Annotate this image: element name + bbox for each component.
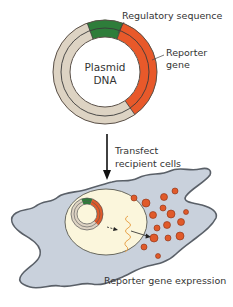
reporter-gene-label-line1: Reporter bbox=[166, 47, 207, 58]
regulatory-sequence-label: Regulatory sequence bbox=[122, 10, 223, 21]
reporter-gene-label-line2: gene bbox=[166, 59, 190, 70]
reporter-gene-expression-label: Reporter gene expression bbox=[104, 275, 226, 286]
plasmid-dna: Plasmid DNA bbox=[53, 20, 157, 124]
plasmid-label: Plasmid bbox=[85, 61, 126, 73]
reporter-gene-diagram: Plasmid DNA Regulatory sequence Reporter… bbox=[0, 0, 233, 307]
transfect-label-line2: recipient cells bbox=[115, 158, 181, 169]
nuclear-plasmid bbox=[71, 198, 103, 230]
transfect-label-line1: Transfect bbox=[114, 145, 159, 156]
dna-label: DNA bbox=[93, 74, 117, 86]
transfect-arrow bbox=[103, 134, 111, 180]
recipient-cell bbox=[12, 168, 217, 287]
